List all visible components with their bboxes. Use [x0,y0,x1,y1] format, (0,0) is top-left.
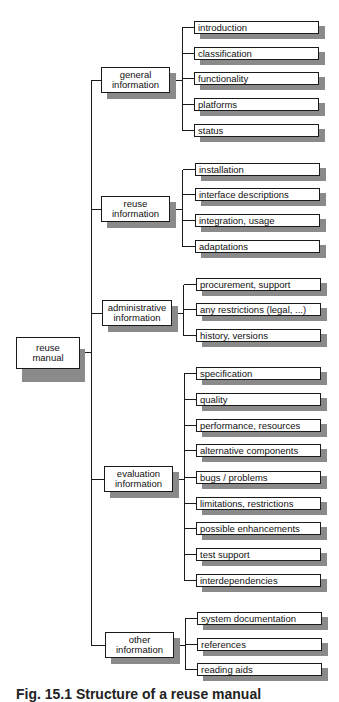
connector [182,104,194,105]
connector [184,399,196,400]
root-label-line2: manual [17,353,79,364]
group-node-administrative-information: administrative information [102,300,172,326]
leaf-node: alternative components [196,444,321,457]
leaf-node: procurement, support [196,278,321,291]
leaf-node: adaptations [195,240,320,253]
figure-caption: Fig. 15.1 Structure of a reuse manual [16,686,261,702]
group-node-general-information: general information [101,67,170,93]
connector [183,169,195,170]
connector [182,27,194,28]
connector [91,645,105,646]
connector [183,194,195,195]
leaf-node: functionality [194,72,319,85]
connector [182,78,194,79]
group-label-line2: information [103,313,171,324]
branch-line [182,170,183,247]
group-label-line2: information [102,209,169,220]
connector [185,618,197,619]
connector [184,373,196,374]
connector [185,669,197,670]
connector [184,425,196,426]
connector [184,450,196,451]
leaf-node: quality [196,393,321,406]
group-node-other-information: other information [105,632,174,658]
connector [184,284,196,285]
branch-line [183,285,184,336]
connector [184,477,196,478]
leaf-node: system documentation [197,612,322,625]
leaf-node: limitations, restrictions [196,497,321,510]
group-label-line2: information [105,479,172,490]
leaf-node: performance, resources [196,419,321,432]
leaf-node: integration, usage [195,214,320,227]
group-label-line2: information [102,80,169,91]
leaf-node: specification [196,367,321,380]
root-trunk-line [91,80,92,645]
connector [184,309,196,310]
connector [184,528,196,529]
leaf-node: interdependencies [196,574,321,587]
leaf-node: possible enhancements [196,522,321,535]
leaf-node: platforms [194,98,319,111]
leaf-node: references [197,638,322,651]
leaf-node: interface descriptions [195,188,320,201]
leaf-node: test support [196,548,321,561]
leaf-node: reading aids [197,663,322,676]
group-label-line2: information [106,645,173,656]
connector [184,554,196,555]
branch-line [182,27,183,131]
root-node-reuse-manual: reuse manual [16,337,80,369]
connector [185,644,197,645]
leaf-node: installation [195,163,320,176]
connector [182,130,194,131]
connector [184,335,196,336]
group-node-evaluation-information: evaluation information [104,466,173,492]
connector [184,580,196,581]
connector [183,246,195,247]
leaf-node: history, versions [196,329,321,342]
connector [184,503,196,504]
connector [91,313,102,314]
leaf-node: introduction [194,21,319,34]
leaf-node: status [194,124,319,137]
leaf-node: any restrictions (legal, ...) [196,303,321,316]
connector [182,53,194,54]
group-node-reuse-information: reuse information [101,196,170,222]
connector [183,220,195,221]
leaf-node: classification [194,47,319,60]
leaf-node: bugs / problems [196,471,321,484]
connector [91,479,104,480]
